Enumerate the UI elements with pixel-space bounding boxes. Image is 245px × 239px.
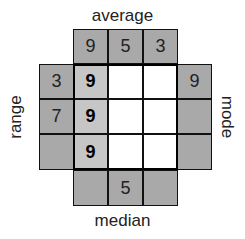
grid-cell-r1-c1[interactable]: 9 <box>73 64 108 99</box>
clue-range-row-2: 7 <box>39 99 74 134</box>
clue-median-col-3 <box>143 170 178 206</box>
clue-range-row-1: 3 <box>39 64 74 99</box>
grid-cell-r3-c2[interactable] <box>108 134 143 170</box>
clue-average-col-2: 5 <box>108 29 143 64</box>
clue-mode-row-3 <box>177 134 212 170</box>
clue-average-col-1: 9 <box>73 29 108 64</box>
clue-mode-row-1: 9 <box>177 64 212 99</box>
grid-cell-r3-c1[interactable]: 9 <box>73 134 108 170</box>
grid-cell-r2-c2[interactable] <box>108 99 143 134</box>
clue-average-col-3: 3 <box>143 29 178 64</box>
clue-median-col-1 <box>73 170 108 206</box>
label-average: average <box>0 7 245 24</box>
grid-cell-r2-c3[interactable] <box>143 99 178 134</box>
clue-range-row-3 <box>39 134 74 170</box>
clue-mode-row-2 <box>177 99 212 134</box>
label-median: median <box>0 212 245 229</box>
grid-cell-r1-c2[interactable] <box>108 64 143 99</box>
grid-cell-r3-c3[interactable] <box>143 134 178 170</box>
clue-median-col-2: 5 <box>108 170 143 206</box>
grid-cell-r1-c3[interactable] <box>143 64 178 99</box>
label-mode: mode <box>219 96 236 139</box>
label-range: range <box>7 95 24 138</box>
grid-cell-r2-c1[interactable]: 9 <box>73 99 108 134</box>
